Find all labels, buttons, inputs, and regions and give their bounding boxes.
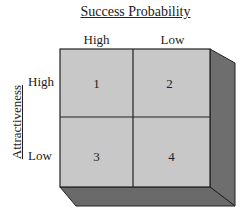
cell-2: 2 (133, 76, 206, 92)
box-bottom-face (60, 187, 235, 206)
matrix-3d-box (0, 0, 251, 222)
cell-3: 3 (60, 149, 133, 165)
cell-4: 4 (135, 149, 208, 165)
cell-1: 1 (60, 76, 133, 92)
box-front-face (60, 49, 210, 187)
box-side-face (210, 49, 235, 206)
